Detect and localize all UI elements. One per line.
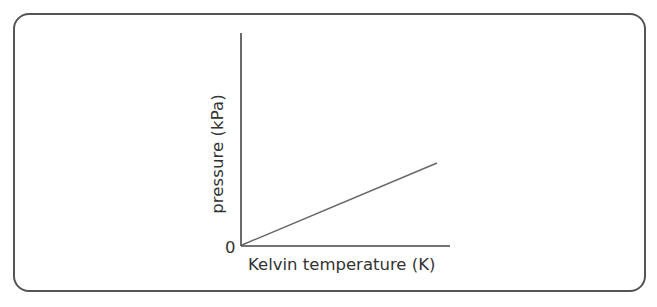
data-line [242, 163, 437, 245]
x-axis-label: Kelvin temperature (K) [248, 255, 435, 274]
origin-label: 0 [225, 238, 236, 257]
y-axis-label: pressure (kPa) [208, 94, 227, 214]
